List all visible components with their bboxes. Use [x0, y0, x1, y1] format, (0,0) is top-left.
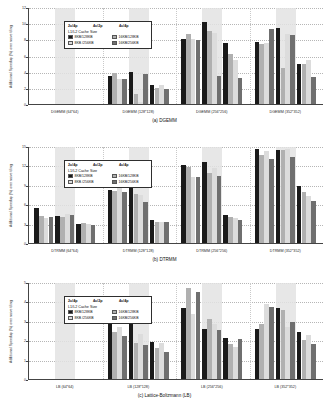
- y-tick-mark: [26, 283, 28, 284]
- legend-group-1: 4c/2p: [93, 299, 119, 303]
- legend-item-0: 8KB/128KB: [68, 174, 112, 178]
- bar: [238, 220, 243, 243]
- y-tick-label: 10: [17, 22, 26, 26]
- y-tick-mark: [26, 40, 28, 41]
- legend-item-1: 16KB/128KB: [112, 174, 156, 178]
- y-tick-mark: [26, 322, 28, 323]
- legend-title: L1/L2 Cache Size: [68, 169, 148, 173]
- y-axis-label-dgemm: Additional Speedup (%) over naive tiling: [6, 8, 17, 105]
- bar: [122, 79, 127, 104]
- legend-group-0: 2c/4p: [68, 24, 93, 28]
- bar: [196, 177, 201, 243]
- legend-group-1: 4c/2p: [93, 24, 119, 28]
- chart-panel-dgemm: Additional Speedup (%) over naive tiling…: [0, 0, 329, 139]
- y-tick-mark: [26, 147, 28, 148]
- legend-title: L1/L2 Cache Size: [68, 305, 148, 309]
- legend-label-0: 8KB/128KB: [75, 35, 93, 39]
- y-tick-mark: [26, 8, 28, 9]
- bar: [143, 345, 148, 379]
- bar: [122, 192, 127, 243]
- y-tick-label: 6: [17, 55, 26, 59]
- legend-swatch-3: [112, 41, 117, 45]
- legend-label-0: 8KB/128KB: [75, 310, 93, 314]
- bar: [290, 35, 295, 104]
- bar: [164, 222, 169, 243]
- bar: [290, 157, 295, 243]
- panel-caption-dtrmm: (b) DTRMM: [0, 257, 329, 262]
- y-tick-label: 2: [17, 87, 26, 91]
- y-tick-label: 8: [17, 38, 26, 42]
- legend-swatch-0: [68, 35, 73, 39]
- legend-swatch-3: [112, 316, 117, 320]
- legend-lb: 2c/4p 4c/2p 4c/4p L1/L2 Cache Size 8KB/1…: [64, 296, 152, 324]
- y-tick-mark: [26, 361, 28, 362]
- x-tick-label: DGEMM (128*128): [123, 109, 154, 115]
- legend-swatch-2: [68, 41, 73, 45]
- legend-label-3: 16KB/256KB: [119, 316, 139, 320]
- y-tick-mark: [26, 73, 28, 74]
- x-axis-labels-lb: LB (64*64)LB (128*128)LB (256*256)LB (35…: [28, 382, 323, 391]
- bar: [164, 352, 169, 379]
- legend-swatch-3: [112, 180, 117, 184]
- bar: [70, 215, 75, 243]
- legend-group-1: 4c/2p: [93, 163, 119, 167]
- y-tick-label: 2: [17, 339, 26, 343]
- y-tick-mark: [26, 225, 28, 226]
- legend-group-0: 2c/4p: [68, 163, 93, 167]
- y-tick-label: 5: [17, 281, 26, 285]
- y-tick-mark: [26, 166, 28, 167]
- legend-label-2: 8KB /256KB: [75, 316, 94, 320]
- x-tick-label: DGEMM (256*256): [196, 109, 227, 115]
- bar: [269, 307, 274, 379]
- legend-swatch-2: [68, 316, 73, 320]
- bar: [196, 292, 201, 379]
- y-tick-label: 4: [17, 300, 26, 304]
- x-gridline: [250, 283, 251, 379]
- legend-swatch-1: [112, 35, 117, 39]
- legend-swatch-1: [112, 174, 117, 178]
- bar: [143, 202, 148, 243]
- legend-label-1: 16KB/128KB: [119, 310, 139, 314]
- bar: [217, 330, 222, 379]
- legend-swatch-0: [68, 174, 73, 178]
- legend-label-1: 16KB/128KB: [119, 174, 139, 178]
- y-tick-mark: [26, 244, 28, 245]
- x-tick-label: LB (352*352): [274, 384, 296, 390]
- y-tick-mark: [26, 89, 28, 90]
- y-tick-mark: [26, 380, 28, 381]
- legend-item-3: 16KB/256KB: [112, 41, 156, 45]
- y-tick-mark: [26, 57, 28, 58]
- bar: [122, 336, 127, 379]
- legend-group-headers: 2c/4p 4c/2p 4c/4p: [68, 163, 148, 167]
- y-tick-mark: [26, 341, 28, 342]
- chart-panel-lb: Additional Speedup (%) over naive tiling…: [0, 275, 329, 414]
- legend-item-0: 8KB/128KB: [68, 310, 112, 314]
- y-tick-mark: [26, 205, 28, 206]
- x-tick-label: LB (64*64): [56, 384, 74, 390]
- bar: [217, 76, 222, 104]
- bar: [290, 322, 295, 379]
- legend-swatch-0: [68, 310, 73, 314]
- x-axis-labels-dtrmm: DTRMM (64*64)DTRMM (128*128)DTRMM (256*2…: [28, 246, 323, 255]
- x-tick-label: DTRMM (128*128): [123, 248, 154, 254]
- y-tick-label: 9: [17, 184, 26, 188]
- y-tick-label: 1: [17, 359, 26, 363]
- legend-item-2: 8KB /256KB: [68, 41, 112, 45]
- plot-area-lb: Additional Speedup (%) over naive tiling…: [28, 283, 323, 380]
- y-tick-label: 6: [17, 203, 26, 207]
- legend-group-headers: 2c/4p 4c/2p 4c/4p: [68, 24, 148, 28]
- y-tick-label: 3: [17, 223, 26, 227]
- bar: [49, 217, 54, 243]
- bar: [196, 40, 201, 104]
- x-gridline: [176, 147, 177, 243]
- x-gridline: [250, 147, 251, 243]
- y-tick-label: 3: [17, 320, 26, 324]
- bar: [217, 176, 222, 243]
- y-tick-label: 15: [17, 145, 26, 149]
- legend-label-2: 8KB /256KB: [75, 41, 94, 45]
- x-tick-label: LB (128*128): [127, 384, 149, 390]
- plot-area-dgemm: Additional Speedup (%) over naive tiling…: [28, 8, 323, 105]
- bar: [269, 29, 274, 104]
- legend-dtrmm: 2c/4p 4c/2p 4c/4p L1/L2 Cache Size 8KB/1…: [64, 160, 152, 188]
- y-tick-label: 12: [17, 6, 26, 10]
